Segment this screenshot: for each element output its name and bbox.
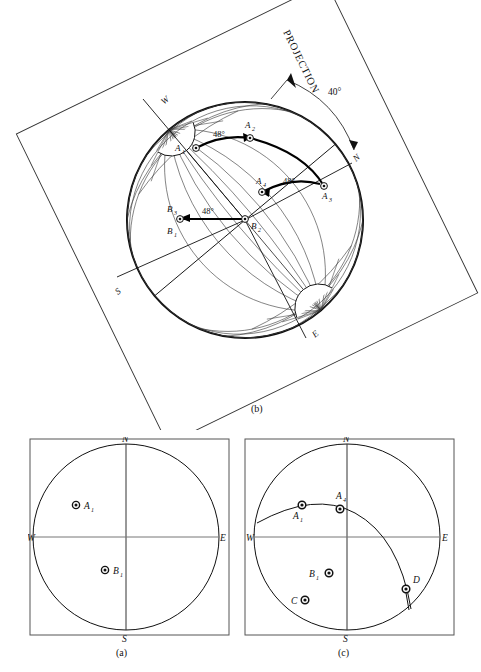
figure-root: W N E S A 1 A 2 — [0, 0, 481, 672]
panel-a-point-B1-label: B — [113, 566, 119, 576]
panel-a-point-A1-label: A — [83, 501, 90, 511]
projection-label: PROJECTION — [281, 28, 321, 95]
panel-c-point-A4-sub: 4 — [343, 497, 346, 503]
point-B2-label: B — [251, 221, 257, 231]
panel-c-point-A4-label: A — [335, 491, 342, 501]
panel-a-label-n: N — [121, 437, 129, 444]
panel-c-label-e: E — [441, 533, 448, 543]
panel-c-stereonet: N S W E A 1 A 4 B 1 C D (c) — [243, 437, 468, 662]
point-A1-sub: 1 — [182, 149, 185, 155]
tilt-arrow-end — [349, 140, 358, 150]
panel-c-point-A1-sub: 1 — [300, 517, 303, 523]
point-A3-label: A — [321, 191, 328, 201]
panel-b-projection: W N E S A 1 A 2 — [0, 0, 481, 430]
point-B2-sub: 2 — [258, 227, 261, 233]
panel-a-caption: (a) — [116, 647, 127, 659]
point-A2-sub: 2 — [252, 126, 255, 132]
point-B1-label: B — [167, 226, 173, 236]
compass-label-w: W — [159, 93, 172, 106]
point-B1-sub: 1 — [174, 232, 177, 238]
panel-c-point-C-label: C — [291, 596, 298, 606]
compass-label-s: S — [113, 286, 123, 297]
point-A2-label: A — [244, 120, 251, 130]
panel-a-point-B1-sub: 1 — [120, 572, 123, 578]
panel-c-point-B1-sub: 1 — [316, 575, 319, 581]
compass-label-e: E — [309, 328, 321, 340]
compass-label-n: N — [350, 151, 363, 164]
panel-c-caption: (c) — [338, 647, 349, 659]
point-A3-sub: 3 — [328, 197, 332, 203]
angle-label-a4-a3: 48° — [283, 176, 295, 186]
point-B3-label: B — [167, 204, 173, 214]
panel-a-point-A1-sub: 1 — [91, 507, 94, 513]
angle-label-b3-b2: 48° — [202, 206, 214, 216]
point-B3-sub: 3 — [173, 210, 177, 216]
panel-b-caption: (b) — [251, 403, 263, 415]
panel-c-label-w: W — [246, 533, 255, 543]
tilt-angle-label: 40° — [328, 87, 342, 97]
panel-c-point-D-label: D — [412, 575, 420, 585]
angle-label-a1-a2: 48° — [213, 129, 225, 139]
tilt-arrow-start — [287, 73, 296, 88]
panel-a-stereonet: N S W E A 1 B 1 (a) — [28, 437, 243, 662]
panel-c-label-s: S — [343, 634, 348, 644]
panel-a-label-e: E — [219, 533, 226, 543]
panel-a-label-w: W — [28, 533, 36, 543]
panel-c-point-A1-label: A — [292, 511, 299, 521]
panel-a-label-s: S — [122, 634, 127, 644]
panel-c-label-n: N — [342, 437, 350, 444]
point-A4-label: A — [255, 176, 262, 186]
panel-c-point-B1-label: B — [309, 569, 315, 579]
point-A4-sub: 4 — [263, 182, 266, 188]
point-A1-label: A — [174, 143, 181, 153]
